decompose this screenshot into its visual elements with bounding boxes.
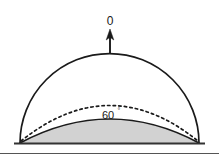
- cone-angle-label: 60: [102, 109, 114, 121]
- zenith-label: 0: [107, 14, 114, 28]
- dome-diagram-svg: 0 60 °: [0, 0, 219, 161]
- degree-symbol-label: °: [118, 107, 121, 114]
- figure-container: 0 60 °: [0, 0, 219, 161]
